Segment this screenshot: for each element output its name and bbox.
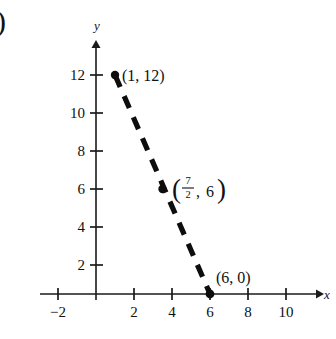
y-axis-arrow-icon (92, 40, 101, 48)
x-tick-label-2: 2 (130, 304, 138, 320)
fraction-label-second-coordinate: 6 (206, 183, 214, 200)
y-tick-label-12: 12 (70, 67, 85, 83)
data-point-6-0 (206, 290, 215, 299)
fraction-label-comma: , (196, 183, 200, 200)
x-tick-label--2: −2 (50, 304, 66, 320)
point-label-7over2-6: ( 7 2 , 6 ) (172, 174, 226, 204)
coordinate-plane-figure: −2 2 4 6 8 10 12 10 8 6 4 2 x y (1, 12) … (0, 0, 336, 339)
fraction-label-close-paren: ) (217, 174, 226, 204)
data-point-1-12 (111, 71, 119, 79)
x-tick-label-8: 8 (244, 304, 252, 320)
fraction-label-open-paren: ( (172, 174, 181, 204)
data-point-7over2-6 (158, 185, 166, 193)
fraction-numerator: 7 (185, 175, 190, 186)
y-tick-label-6: 6 (78, 181, 86, 197)
x-tick-label-4: 4 (168, 304, 176, 320)
x-axis-arrow-icon (316, 290, 324, 299)
x-tick-label-10: 10 (279, 304, 294, 320)
fraction-denominator: 2 (185, 189, 190, 200)
y-tick-label-10: 10 (70, 105, 85, 121)
x-axis-label: x (323, 287, 330, 302)
graph-canvas: −2 2 4 6 8 10 12 10 8 6 4 2 x y (1, 12) … (0, 0, 336, 339)
point-label-6-0: (6, 0) (216, 269, 251, 287)
y-axis-label: y (92, 18, 100, 33)
point-label-1-12: (1, 12) (122, 67, 165, 85)
y-tick-label-4: 4 (78, 219, 86, 235)
y-tick-label-8: 8 (78, 143, 86, 159)
x-tick-label-6: 6 (206, 304, 214, 320)
y-tick-label-2: 2 (78, 257, 86, 273)
